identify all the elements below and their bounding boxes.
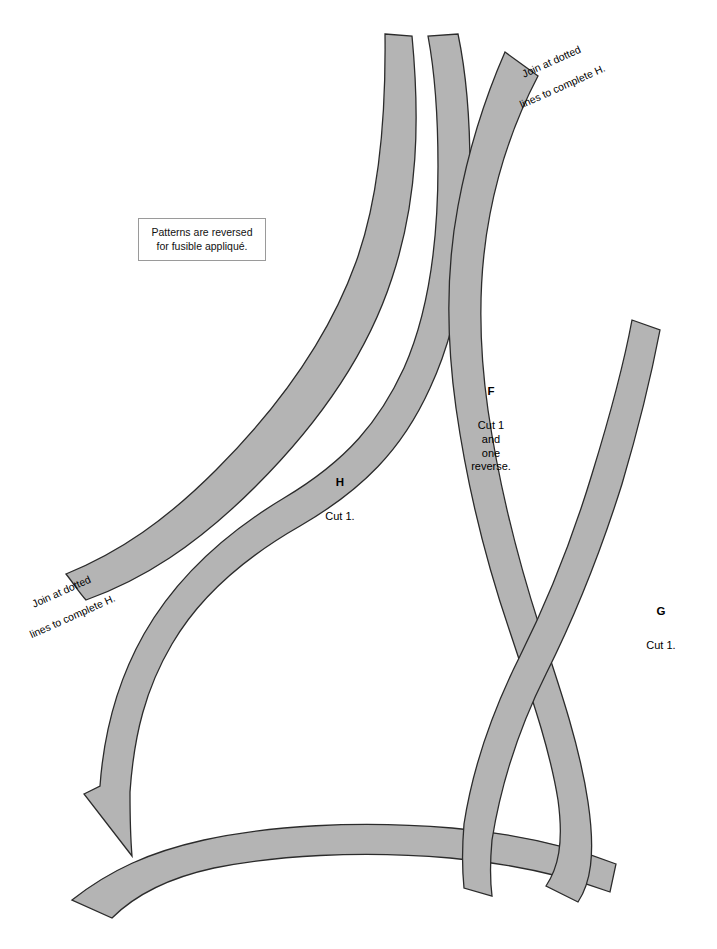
piece-label-f: F Cut 1 and one reverse. (461, 364, 521, 494)
fusible-applique-note: Patterns are reversed for fusible appliq… (138, 218, 266, 261)
pattern-sheet: Patterns are reversed for fusible appliq… (0, 0, 717, 949)
piece-label-f-letter: F (461, 384, 521, 398)
fusible-applique-note-line-2: for fusible appliqué. (143, 239, 261, 253)
piece-label-h-letter: H (311, 475, 369, 489)
piece-label-h: H Cut 1. (311, 455, 369, 544)
piece-label-g: G Cut 1. (634, 584, 688, 673)
piece-label-g-letter: G (634, 604, 688, 618)
fusible-applique-note-line-1: Patterns are reversed (143, 225, 261, 239)
piece-label-f-cut: Cut 1 and one reverse. (461, 419, 521, 474)
piece-label-h-cut: Cut 1. (311, 510, 369, 524)
piece-h-bottom-tail (72, 824, 616, 918)
piece-label-g-cut: Cut 1. (634, 639, 688, 653)
